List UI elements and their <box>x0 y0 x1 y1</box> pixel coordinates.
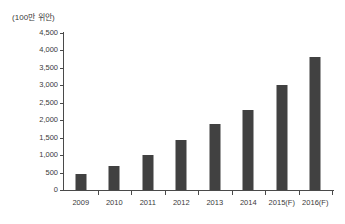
y-axis-tick-label: 3,000 <box>39 80 58 89</box>
y-axis-tick-label: 4,000 <box>39 45 58 54</box>
y-axis-tick-label: 2,000 <box>39 115 58 124</box>
x-axis-separator <box>265 190 266 195</box>
y-axis-tick-label: 3,500 <box>39 63 58 72</box>
x-axis-separator <box>299 190 300 195</box>
bar[interactable] <box>75 174 86 190</box>
bar[interactable] <box>142 155 153 190</box>
x-axis-separator <box>232 190 233 195</box>
x-axis-tick-label: 2015(F) <box>269 198 295 207</box>
bar-slot <box>198 33 232 190</box>
bar-slot <box>131 33 165 190</box>
x-axis-tick-label: 2016(F) <box>302 198 328 207</box>
bar-slot <box>232 33 266 190</box>
x-axis-tick-label: 2010 <box>106 198 123 207</box>
bar-slot <box>265 33 299 190</box>
bar[interactable] <box>310 57 321 190</box>
bar[interactable] <box>209 124 220 190</box>
bar[interactable] <box>276 85 287 190</box>
y-axis-tick-label: 0 <box>54 185 58 194</box>
bar[interactable] <box>243 110 254 190</box>
y-axis-tick-label: 1,500 <box>39 133 58 142</box>
y-axis-unit-label: (100만 위안) <box>12 13 55 23</box>
bar-slot <box>299 33 333 190</box>
x-axis-tick-label: 2011 <box>140 198 156 207</box>
x-axis-tick-label: 2014 <box>240 198 257 207</box>
y-axis-tick-label: 2,500 <box>39 98 58 107</box>
bar-slot <box>64 33 98 190</box>
x-axis-separator <box>332 190 333 195</box>
y-axis-tick-mark <box>60 190 64 191</box>
plot-area <box>64 33 332 190</box>
x-axis-separator <box>131 190 132 195</box>
x-axis-separator <box>198 190 199 195</box>
bar-chart-figure: (100만 위안) 05001,0001,5002,0002,5003,0003… <box>0 0 345 224</box>
x-axis-tick-label: 2012 <box>173 198 190 207</box>
x-axis-separator <box>98 190 99 195</box>
bar-slot <box>165 33 199 190</box>
y-axis-tick-label: 4,500 <box>39 28 58 37</box>
bar-slot <box>98 33 132 190</box>
bar[interactable] <box>109 166 120 190</box>
y-axis-tick-label: 1,000 <box>39 150 58 159</box>
y-axis-tick-label: 500 <box>45 168 58 177</box>
bar[interactable] <box>176 140 187 190</box>
x-axis-tick-label: 2009 <box>72 198 89 207</box>
x-axis-separator <box>165 190 166 195</box>
x-axis-tick-label: 2013 <box>206 198 223 207</box>
